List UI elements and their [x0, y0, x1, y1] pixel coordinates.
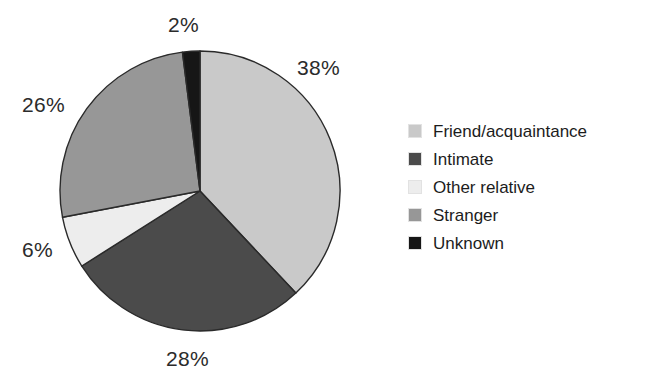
pie-slice-group: [60, 51, 340, 331]
legend-swatch-other-relative: [408, 180, 422, 194]
slice-label-unknown: 2%: [168, 14, 199, 35]
legend-item-intimate: Intimate: [408, 145, 648, 173]
chart-legend: Friend/acquaintanceIntimateOther relativ…: [408, 117, 648, 257]
legend-item-stranger: Stranger: [408, 201, 648, 229]
pie-chart-figure: 2% 38% 26% 6% 28% Friend/acquaintanceInt…: [0, 0, 659, 383]
legend-swatch-unknown: [408, 236, 422, 250]
legend-swatch-intimate: [408, 152, 422, 166]
legend-swatch-friend-acquaintance: [408, 124, 422, 138]
slice-label-other-relative: 6%: [22, 239, 53, 260]
legend-item-unknown: Unknown: [408, 229, 648, 257]
legend-swatch-stranger: [408, 208, 422, 222]
legend-label-intimate: Intimate: [433, 151, 493, 168]
pie-chart-svg: [0, 0, 420, 383]
pie-slice-stranger: [60, 52, 200, 217]
legend-label-other-relative: Other relative: [433, 179, 535, 196]
pie-chart-plot-area: 2% 38% 26% 6% 28%: [0, 0, 420, 383]
legend-label-unknown: Unknown: [433, 235, 504, 252]
slice-label-stranger: 26%: [22, 94, 65, 115]
legend-item-friend-acquaintance: Friend/acquaintance: [408, 117, 648, 145]
legend-item-other-relative: Other relative: [408, 173, 648, 201]
legend-label-friend-acquaintance: Friend/acquaintance: [433, 123, 587, 140]
slice-label-friend-acquaintance: 38%: [297, 57, 340, 78]
legend-label-stranger: Stranger: [433, 207, 498, 224]
slice-label-intimate: 28%: [166, 348, 209, 369]
